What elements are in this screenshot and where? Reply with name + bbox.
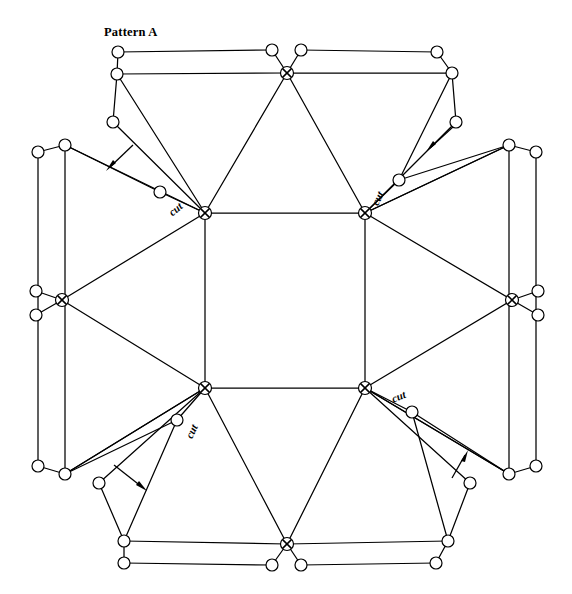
edge-br-flap-diag [365, 388, 470, 483]
edge-bottom-outer-bar-left [124, 563, 272, 565]
node-ll-hex-outer [32, 460, 44, 472]
edge-bottom-inner-bar-right [287, 541, 448, 544]
node-ul-hex-outer [32, 146, 44, 158]
edge-right-hex-mid-lower [365, 300, 512, 388]
node-right-lower-tab [464, 477, 476, 489]
hub-top [281, 67, 294, 80]
node-right-mid-lower [532, 309, 544, 321]
hub-center-top-right [359, 207, 372, 220]
node-right-mid-upper [532, 285, 544, 297]
node-right-upper-tab [450, 116, 462, 128]
edge-left-hex-mid-lower [62, 300, 205, 388]
cut-label-group: cut cut cut cut [166, 188, 408, 440]
edge-tl-flap-spine [113, 74, 117, 122]
edge-top-outer-bar-right [301, 50, 437, 52]
arrow-top-left [106, 145, 133, 171]
edge-tl-flap-diag [113, 122, 205, 213]
arrow-group [106, 126, 468, 491]
node-top-right-inner [446, 67, 458, 79]
node-bottom-left-inner [118, 535, 130, 547]
node-cut-bottom-left [171, 414, 183, 426]
node-ur-hex-inner [503, 139, 515, 151]
node-cut-top-right [393, 174, 405, 186]
cut-label-bottom-left: cut [183, 421, 200, 440]
arrow-top-right [426, 126, 454, 152]
node-lr-hex-inner [503, 468, 515, 480]
edge-bottom-tri-left [205, 388, 287, 544]
node-top-right-outer [431, 46, 443, 58]
edge-bl-flap-spine [99, 483, 124, 541]
edge-bl-cut-upper [65, 420, 177, 474]
node-top-left-inner [111, 68, 123, 80]
node-bottom-mid-left [266, 559, 278, 571]
edge-bottom-tri-right [287, 388, 365, 544]
edge-bottom-outer-bar-right [301, 563, 436, 565]
hub-center-bottom-left [199, 382, 212, 395]
pattern-diagram-svg: cut cut cut cut [0, 0, 572, 594]
edge-br-cut-lower [365, 388, 509, 474]
node-left-mid-upper [30, 285, 42, 297]
edge-tr-flap-long [399, 73, 452, 180]
edge-right-hex-top-diag [365, 145, 509, 213]
node-ur-hex-outer [530, 146, 542, 158]
edge-bottom-inner-bar-left [124, 541, 287, 544]
node-ul-hex-inner [59, 139, 71, 151]
edge-top-inner-bar-left [117, 73, 287, 74]
edge-top-tri-left [205, 73, 287, 213]
node-top-mid-left [266, 44, 278, 56]
cut-label-bottom-right: cut [390, 388, 408, 405]
hub-right [506, 294, 519, 307]
arrow-bottom-left [114, 465, 147, 491]
edge-right-hex-mid-upper [365, 213, 512, 300]
hub-bottom [281, 538, 294, 551]
node-top-mid-right [295, 44, 307, 56]
node-bottom-left-outer [118, 557, 130, 569]
edge-br-flap-spine [448, 483, 470, 541]
node-left-mid-lower [30, 309, 42, 321]
node-left-lower-tab [93, 477, 105, 489]
edge-bl-flap-long [124, 420, 177, 541]
node-lr-hex-outer [530, 460, 542, 472]
pattern-figure: Pattern A [0, 0, 572, 594]
node-left-upper-tab [107, 116, 119, 128]
node-bottom-right-inner [442, 535, 454, 547]
edge-top-tri-right [287, 73, 365, 213]
edge-tr-flap-spine [452, 73, 456, 122]
node-bottom-right-outer [430, 557, 442, 569]
node-bottom-mid-right [295, 559, 307, 571]
page-title: Pattern A [104, 25, 158, 40]
hub-left [56, 294, 69, 307]
node-ll-hex-inner [59, 468, 71, 480]
node-top-left-outer [112, 46, 124, 58]
node-cut-top-left [154, 186, 166, 198]
edge-top-outer-bar-left [118, 50, 272, 52]
hub-center-bottom-right [359, 382, 372, 395]
hub-center-top-left [199, 207, 212, 220]
node-cut-bottom-right [406, 406, 418, 418]
hub-node-group [56, 67, 519, 551]
edge-left-hex-mid-upper [62, 213, 205, 300]
